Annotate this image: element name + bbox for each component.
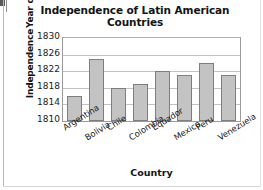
chart-title: Independence of Latin American Countries xyxy=(30,4,240,28)
x-axis-tick-labels: ArgentinaBoliviaChileColombiaEquadorMexi… xyxy=(63,122,240,168)
y-tick-label-1818: 1818 xyxy=(32,82,60,91)
page-edge-left xyxy=(3,0,4,186)
y-tick-label-1830: 1830 xyxy=(32,32,60,41)
bar-peru xyxy=(199,63,214,121)
y-tick-label-1814: 1814 xyxy=(32,98,60,107)
page-edge-left-secondary xyxy=(6,0,7,12)
chart-title-line-2: Countries xyxy=(30,16,240,28)
y-axis-tick-labels: 181018141818182218261830 xyxy=(28,37,60,122)
y-tick-label-1810: 1810 xyxy=(32,115,60,124)
bar-venezuela xyxy=(221,75,236,121)
chart-figure: Independence of Latin American Countries… xyxy=(0,0,263,190)
y-tick-label-1826: 1826 xyxy=(32,49,60,58)
chart-title-line-1: Independence of Latin American xyxy=(30,4,240,16)
y-axis-title-line-1: Year of xyxy=(25,0,35,28)
x-axis-title: Country xyxy=(62,167,241,178)
bar-colombia xyxy=(133,84,148,121)
page-edge-bottom xyxy=(3,186,260,187)
y-tick-label-1822: 1822 xyxy=(32,65,60,74)
page-edge-right xyxy=(260,0,261,187)
